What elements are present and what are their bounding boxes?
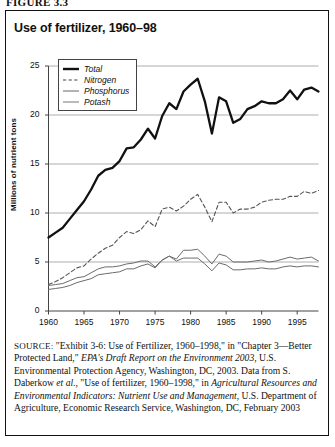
legend-label-total: Total bbox=[84, 64, 102, 74]
y-tick-label: 20 bbox=[14, 109, 40, 119]
source-note: SOURCE: "Exhibit 3-6: Use of Fertilizer,… bbox=[14, 340, 319, 414]
y-tick-label: 0 bbox=[14, 305, 40, 315]
y-tick-label: 5 bbox=[14, 256, 40, 266]
x-tick-label: 1985 bbox=[206, 317, 246, 327]
legend-label-phosphorus: Phosphorus bbox=[84, 86, 129, 96]
x-tick-label: 1995 bbox=[277, 317, 317, 327]
x-tick-label: 1990 bbox=[242, 317, 282, 327]
legend-label-potash: Potash bbox=[84, 97, 110, 107]
x-tick-label: 1975 bbox=[135, 317, 175, 327]
legend-item-total: Total bbox=[63, 63, 129, 74]
x-tick-label: 1970 bbox=[100, 317, 140, 327]
y-tick-label: 25 bbox=[14, 60, 40, 70]
y-tick-label: 10 bbox=[14, 207, 40, 217]
legend-item-nitrogen: Nitrogen bbox=[63, 74, 129, 85]
legend-label-nitrogen: Nitrogen bbox=[84, 75, 116, 85]
y-tick-label: 15 bbox=[14, 158, 40, 168]
source-label: SOURCE: bbox=[14, 341, 53, 351]
legend-item-phosphorus: Phosphorus bbox=[63, 85, 129, 96]
x-tick-label: 1980 bbox=[171, 317, 211, 327]
x-tick-label: 1965 bbox=[64, 317, 104, 327]
series-line-nitrogen bbox=[49, 190, 319, 284]
legend-key-phosphorus-icon bbox=[63, 86, 79, 96]
source-italic-2: et al. bbox=[56, 377, 75, 388]
legend-key-potash-icon bbox=[63, 97, 79, 107]
series-line-potash bbox=[49, 249, 319, 289]
chart-plot-area: Millions of nutrient tons 05101520251960… bbox=[0, 0, 335, 335]
source-italic-1: EPA's Draft Report on the Environment 20… bbox=[81, 352, 254, 363]
legend-item-potash: Potash bbox=[63, 96, 129, 107]
legend-key-total-icon bbox=[63, 64, 79, 74]
legend-key-nitrogen-icon bbox=[63, 75, 79, 85]
source-text-3: , "Use of fertilizer, 1960–1998," in bbox=[76, 377, 212, 388]
x-tick-label: 1960 bbox=[29, 317, 69, 327]
chart-legend: Total Nitrogen Phosphorus Potash bbox=[58, 59, 137, 111]
chart-svg bbox=[0, 0, 335, 335]
